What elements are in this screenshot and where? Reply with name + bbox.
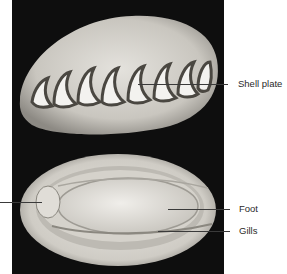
foot-region	[58, 178, 198, 234]
ventral-view	[20, 154, 216, 266]
gills-leader-line	[158, 231, 230, 232]
chiton-illustration	[12, 0, 224, 274]
shell-plate-leader-line	[138, 84, 228, 85]
dorsal-view	[20, 16, 218, 135]
gills-label: Gills	[239, 226, 257, 236]
shell-plate-label: Shell plate	[238, 79, 282, 89]
left-leader-line	[0, 202, 42, 203]
foot-leader-line	[168, 209, 230, 210]
specimen-photo	[12, 0, 224, 274]
foot-label: Foot	[239, 204, 258, 214]
